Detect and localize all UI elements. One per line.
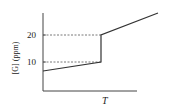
y-axis-label: [G] (ppm) <box>11 41 20 74</box>
data-line <box>43 13 158 71</box>
x-axis-label: T <box>102 95 109 106</box>
y-tick-label-10: 10 <box>27 57 37 67</box>
chart: 20 10 [G] (ppm) T <box>0 0 171 110</box>
y-tick-label-20: 20 <box>27 30 37 40</box>
